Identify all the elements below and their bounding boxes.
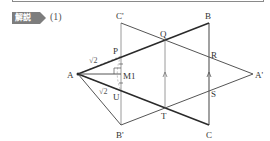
line-A-C xyxy=(78,74,209,125)
label-R: R xyxy=(211,50,217,60)
label-sqrt2-upper: √2 xyxy=(89,56,97,65)
label-C: C xyxy=(206,130,212,140)
label-Bprime: B' xyxy=(116,130,124,140)
label-sqrt2-lower: √2 xyxy=(99,87,107,96)
label-A: A xyxy=(67,70,74,80)
label-T: T xyxy=(161,111,167,121)
geometry-figure: C' B B' C A A' P Q R S T U M1 √2 √2 xyxy=(0,0,270,141)
label-M1: M1 xyxy=(123,71,136,81)
label-B: B xyxy=(205,11,211,21)
label-Aprime: A' xyxy=(255,70,263,80)
label-P: P xyxy=(113,46,118,56)
point-A-dot xyxy=(77,73,80,76)
label-S: S xyxy=(211,89,216,99)
line-Bprime-Aprime xyxy=(121,74,253,125)
label-Q: Q xyxy=(160,29,167,39)
line-Cprime-Aprime xyxy=(121,23,253,74)
label-Cprime: C' xyxy=(116,11,124,21)
label-U: U xyxy=(113,92,120,102)
line-A-B xyxy=(78,23,209,74)
